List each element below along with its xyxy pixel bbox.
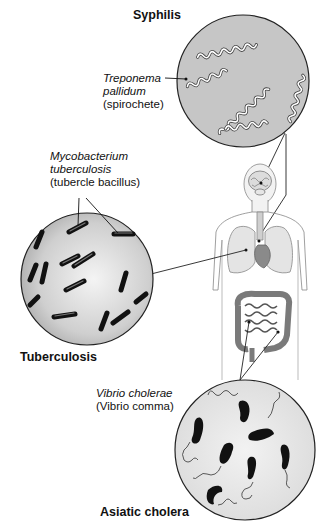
organism-common-tubercle-bacillus: (tubercle bacillus): [50, 176, 140, 189]
cholera-magnified-circle: [175, 380, 315, 520]
disease-pathogen-diagram: Syphilis Treponema pallidum (spirochete)…: [0, 0, 321, 529]
disease-title-tuberculosis: Tuberculosis: [20, 351, 97, 364]
organism-name-treponema-line2: pallidum: [103, 85, 146, 98]
organism-common-spirochete: (spirochete): [103, 98, 164, 111]
organism-common-vibrio-comma: (Vibrio comma): [96, 400, 174, 413]
syphilis-magnified-circle: [177, 15, 309, 147]
human-figure: [213, 164, 307, 380]
organism-name-treponema-line1: Treponema: [103, 72, 161, 85]
organism-name-vibrio: Vibrio cholerae: [96, 387, 173, 400]
organism-name-mycobacterium-line1: Mycobacterium: [50, 150, 128, 163]
tuberculosis-magnified-circle: [21, 198, 153, 345]
disease-title-asiatic-cholera: Asiatic cholera: [100, 506, 189, 519]
disease-title-syphilis: Syphilis: [133, 9, 181, 22]
organism-name-mycobacterium-line2: tuberculosis: [50, 163, 111, 176]
